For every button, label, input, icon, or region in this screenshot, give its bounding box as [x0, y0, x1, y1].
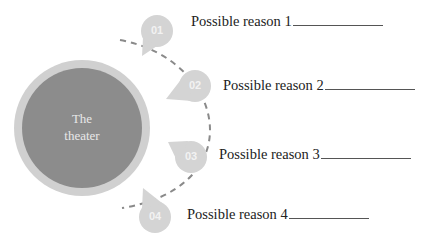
reason-1-blank-line — [293, 13, 383, 26]
reason-2: Possible reason 2 — [223, 77, 415, 94]
marker-02-number: 02 — [183, 79, 207, 91]
reason-2-blank-line — [325, 77, 415, 90]
center-title-line2: theater — [52, 127, 112, 144]
reason-3: Possible reason 3 — [219, 146, 411, 163]
reason-3-text: Possible reason 3 — [219, 146, 320, 162]
marker-01-number: 01 — [145, 24, 169, 36]
reason-4-blank-line — [289, 206, 369, 219]
center-title-line1: The — [52, 110, 112, 127]
reason-1-text: Possible reason 1 — [191, 13, 292, 29]
center-title: The theater — [52, 110, 112, 144]
reason-1: Possible reason 1 — [191, 13, 383, 30]
marker-04-number: 04 — [143, 210, 167, 222]
reason-3-blank-line — [321, 146, 411, 159]
reason-2-text: Possible reason 2 — [223, 77, 324, 93]
reasons-diagram: The theater 01 02 03 04 Possible reason … — [0, 0, 440, 247]
reason-4: Possible reason 4 — [187, 206, 369, 223]
reason-4-text: Possible reason 4 — [187, 206, 288, 222]
marker-03-number: 03 — [179, 150, 203, 162]
